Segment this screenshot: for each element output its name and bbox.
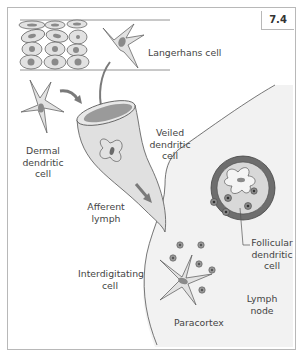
- migration-arrow-dermal: [60, 91, 78, 100]
- label-veiled-dendritic-cell: Veiled dendritic cell: [148, 127, 192, 162]
- label-langerhans-cell: Langerhans cell: [148, 47, 221, 59]
- label-dermal-dendritic-cell: Dermal dendritic cell: [18, 145, 68, 180]
- label-follicular-dendritic-cell: Follicular dendritic cell: [249, 237, 295, 272]
- dermal-dendritic-cell: [21, 80, 64, 133]
- label-afferent-lymph: Afferent lymph: [84, 201, 128, 224]
- label-lymph-node: Lymph node: [245, 293, 279, 316]
- follicle: [211, 156, 276, 220]
- langerhans-cell: [103, 24, 144, 68]
- veiled-dendritic-cell: [100, 139, 122, 162]
- label-interdigitating-cell: Interdigitating cell: [78, 268, 142, 291]
- label-paracortex: Paracortex: [174, 317, 224, 329]
